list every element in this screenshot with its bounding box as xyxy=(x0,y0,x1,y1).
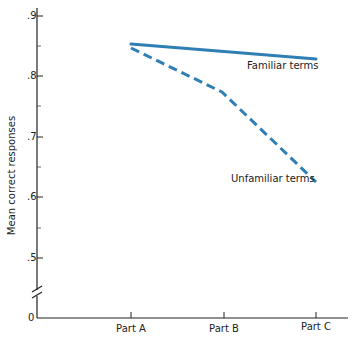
y-tick-label-0.6: .6 xyxy=(27,191,37,202)
y-major-ticks xyxy=(37,16,43,258)
y-tick-label-0.8: .8 xyxy=(27,70,37,81)
x-category-part-a: Part A xyxy=(116,323,146,334)
y-tick-label-0: 0 xyxy=(28,312,34,323)
series-label-unfamiliar: Unfamiliar terms xyxy=(231,173,315,184)
line-chart xyxy=(0,0,355,337)
series-familiar-terms xyxy=(131,44,316,59)
x-category-part-b: Part B xyxy=(209,323,239,334)
x-ticks xyxy=(131,312,316,318)
y-tick-label-0.9: .9 xyxy=(27,10,37,21)
y-tick-label-0.7: .7 xyxy=(27,131,37,142)
y-axis-title: Mean correct responses xyxy=(6,111,17,241)
x-category-part-c: Part C xyxy=(301,321,331,332)
series-label-familiar: Familiar terms xyxy=(247,60,318,71)
y-tick-label-0.5: .5 xyxy=(27,252,37,263)
